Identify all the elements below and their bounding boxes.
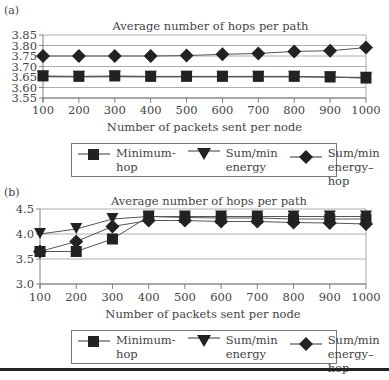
diamond-marker-icon xyxy=(108,49,122,63)
square-marker-icon xyxy=(38,70,49,81)
x-axis-label: Number of packets sent per node xyxy=(105,307,301,321)
diamond-marker-icon xyxy=(72,49,86,63)
y-tick-label: 3.0 xyxy=(16,277,34,291)
legend-item-minimum-hop: Minimum-hop xyxy=(76,333,176,361)
diamond-marker-icon xyxy=(288,337,324,351)
x-tick-label: 200 xyxy=(65,290,87,304)
square-marker-icon xyxy=(253,71,264,82)
series-line xyxy=(43,77,366,78)
legend-label: Sum/min energy xyxy=(226,333,278,361)
legend-label: Sum/min energy xyxy=(226,146,278,174)
square-marker-icon xyxy=(107,234,118,245)
x-tick-label: 900 xyxy=(319,103,341,117)
legend-a: Minimum-hop Sum/min energy Sum/min energ… xyxy=(71,143,337,177)
legend-b: Minimum-hop Sum/min energy Sum/min energ… xyxy=(71,330,337,364)
x-tick-label: 900 xyxy=(319,290,341,304)
legend-item-sum-min-energy-hop: Sum/min energy–hop xyxy=(288,146,380,188)
legend-item-sum-min-energy: Sum/min energy xyxy=(186,146,278,174)
figure-canvas: (a)Average number of hops per path3.553.… xyxy=(0,0,389,380)
x-tick-label: 700 xyxy=(246,290,268,304)
x-tick-label: 500 xyxy=(174,290,196,304)
x-tick-label: 300 xyxy=(101,290,123,304)
chart-title: Average number of hops per path xyxy=(110,194,308,208)
x-tick-label: 100 xyxy=(29,290,51,304)
legend-label: Minimum-hop xyxy=(116,146,176,174)
square-marker-icon xyxy=(76,334,112,348)
y-tick-label: 4.5 xyxy=(16,202,34,216)
x-tick-label: 700 xyxy=(247,103,269,117)
panel-label: (b) xyxy=(4,186,20,199)
x-tick-label: 300 xyxy=(104,103,126,117)
legend-label: Sum/min energy–hop xyxy=(328,146,380,188)
y-tick-label: 3.85 xyxy=(11,28,37,42)
legend-item-sum-min-energy: Sum/min energy xyxy=(186,333,278,361)
x-tick-label: 800 xyxy=(283,103,305,117)
diamond-marker-icon xyxy=(359,41,373,55)
figure-bottom-divider xyxy=(0,368,389,371)
chart-title: Average number of hops per path xyxy=(111,19,309,33)
square-marker-icon xyxy=(76,147,112,161)
legend-label: Minimum-hop xyxy=(116,333,176,361)
chart-b: (b)Average number of hops per path3.03.5… xyxy=(4,186,381,321)
x-tick-label: 500 xyxy=(176,103,198,117)
y-tick-label: 4.0 xyxy=(16,227,34,241)
square-marker-icon xyxy=(181,71,192,82)
x-tick-label: 1000 xyxy=(351,290,380,304)
chart-a: (a)Average number of hops per path3.553.… xyxy=(4,4,381,134)
x-tick-label: 1000 xyxy=(351,103,380,117)
square-marker-icon xyxy=(217,71,228,82)
square-marker-icon xyxy=(289,71,300,82)
diamond-marker-icon xyxy=(180,49,194,63)
triangle-down-marker-icon xyxy=(70,223,82,234)
diamond-marker-icon xyxy=(251,46,265,60)
diamond-marker-icon xyxy=(144,49,158,63)
diamond-marker-icon xyxy=(215,47,229,61)
square-marker-icon xyxy=(325,72,336,83)
square-marker-icon xyxy=(109,70,120,81)
diamond-marker-icon xyxy=(105,220,119,234)
x-tick-label: 400 xyxy=(140,103,162,117)
panel-label: (a) xyxy=(4,4,19,17)
x-tick-label: 200 xyxy=(68,103,90,117)
x-tick-label: 600 xyxy=(210,290,232,304)
series-line xyxy=(43,48,366,56)
triangle-down-marker-icon xyxy=(186,334,222,348)
legend-item-minimum-hop: Minimum-hop xyxy=(76,146,176,174)
x-tick-label: 400 xyxy=(138,290,160,304)
x-tick-label: 800 xyxy=(283,290,305,304)
diamond-marker-icon xyxy=(288,150,324,164)
square-marker-icon xyxy=(145,71,156,82)
y-tick-label: 3.5 xyxy=(16,252,34,266)
diamond-marker-icon xyxy=(36,49,50,63)
x-tick-label: 600 xyxy=(211,103,233,117)
square-marker-icon xyxy=(73,71,84,82)
triangle-down-marker-icon xyxy=(186,147,222,161)
x-axis-label: Number of packets sent per node xyxy=(107,120,303,134)
x-tick-label: 100 xyxy=(32,103,54,117)
square-marker-icon xyxy=(361,73,372,84)
